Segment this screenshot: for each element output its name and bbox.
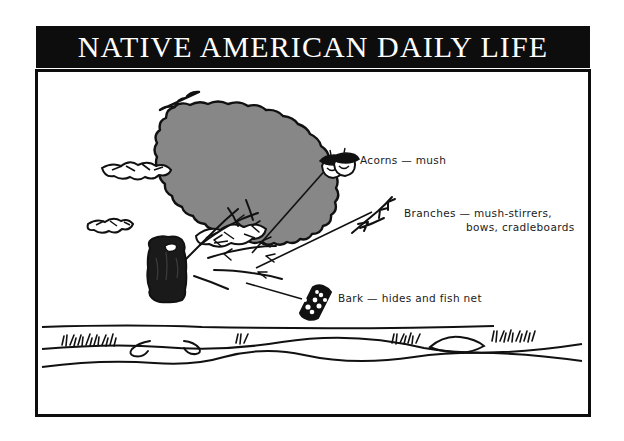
poster-root: NATIVE AMERICAN DAILY LIFE (0, 0, 624, 441)
page-title: NATIVE AMERICAN DAILY LIFE (78, 30, 548, 63)
callout-branches-label-line1: Branches — mush-stirrers, (404, 207, 552, 219)
callout-branches-label-line2: bows, cradleboards (466, 221, 574, 233)
trunk-hollow (165, 244, 177, 252)
callout-bark-label: Bark — hides and fish net (338, 292, 482, 304)
callout-acorns-label: Acorns — mush (360, 154, 446, 166)
illustration-frame (37, 71, 590, 416)
